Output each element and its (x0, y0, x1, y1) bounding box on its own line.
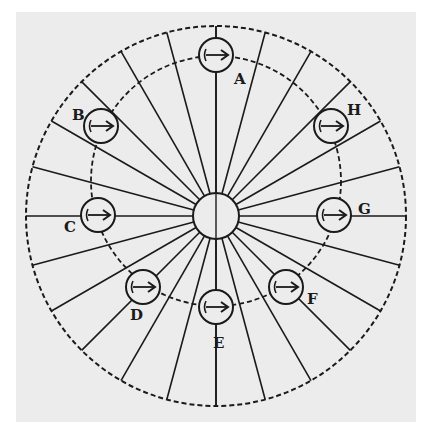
marker-f: F (269, 270, 318, 308)
marker-label: G (358, 200, 371, 218)
marker-label: E (213, 334, 224, 352)
wheel-diagram: ABCDEFGH (0, 0, 428, 435)
marker-c: C (64, 198, 115, 236)
marker-g: G (317, 198, 371, 232)
marker-label: B (72, 106, 85, 124)
marker-label: H (347, 101, 361, 119)
marker-label: C (64, 218, 76, 236)
marker-label: D (130, 306, 143, 324)
marker-label: F (307, 290, 318, 308)
marker-d: D (126, 270, 160, 324)
marker-e: E (199, 290, 233, 352)
marker-a: A (199, 38, 246, 88)
marker-label: A (233, 70, 246, 88)
